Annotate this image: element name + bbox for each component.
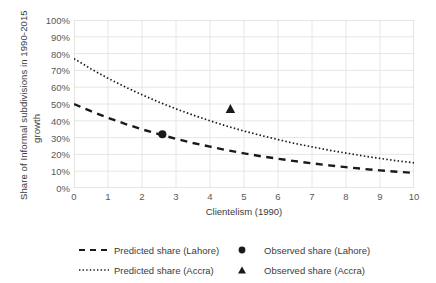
y-tick-label: 20%	[30, 149, 70, 160]
legend-item-predicted-lahore: Predicted share (Lahore)	[78, 240, 230, 260]
x-tick-label: 0	[59, 191, 89, 202]
y-tick-label: 30%	[30, 132, 70, 143]
legend-label-predicted-accra: Predicted share (Accra)	[110, 265, 214, 276]
x-tick-label: 1	[93, 191, 123, 202]
legend-label-predicted-lahore: Predicted share (Lahore)	[110, 245, 219, 256]
x-axis-tick-labels: 012345678910	[0, 191, 436, 207]
plot-area	[74, 20, 414, 188]
y-tick-label: 70%	[30, 65, 70, 76]
chart-legend: Predicted share (Lahore) Observed share …	[78, 240, 408, 280]
x-axis-label: Clientelism (1990)	[74, 206, 414, 217]
legend-item-observed-accra: Observed share (Accra)	[230, 260, 408, 280]
y-tick-label: 60%	[30, 82, 70, 93]
dotted-line-icon	[78, 264, 110, 276]
y-tick-label: 80%	[30, 48, 70, 59]
legend-label-observed-accra: Observed share (Accra)	[254, 265, 365, 276]
y-tick-label: 50%	[30, 99, 70, 110]
y-tick-label: 90%	[30, 31, 70, 42]
legend-item-predicted-accra: Predicted share (Accra)	[78, 260, 230, 280]
chart-figure: Share of Informal subdivisions in 1990-2…	[0, 0, 436, 283]
x-tick-label: 8	[331, 191, 361, 202]
x-tick-label: 9	[365, 191, 395, 202]
y-axis-tick-labels: 0%10%20%30%40%50%60%70%80%90%100%	[28, 0, 70, 283]
y-tick-label: 100%	[30, 15, 70, 26]
circle-marker-icon	[230, 244, 254, 256]
x-tick-label: 10	[399, 191, 429, 202]
legend-label-observed-lahore: Observed share (Lahore)	[254, 245, 370, 256]
y-tick-label: 10%	[30, 166, 70, 177]
x-tick-label: 5	[229, 191, 259, 202]
legend-item-observed-lahore: Observed share (Lahore)	[230, 240, 408, 260]
x-tick-label: 4	[195, 191, 225, 202]
y-tick-label: 40%	[30, 115, 70, 126]
gridlines	[74, 20, 414, 188]
dashed-line-icon	[78, 244, 110, 256]
x-tick-label: 7	[297, 191, 327, 202]
x-tick-label: 3	[161, 191, 191, 202]
x-tick-label: 2	[127, 191, 157, 202]
plot-svg	[74, 20, 414, 188]
x-tick-label: 6	[263, 191, 293, 202]
triangle-marker-icon	[230, 264, 254, 276]
